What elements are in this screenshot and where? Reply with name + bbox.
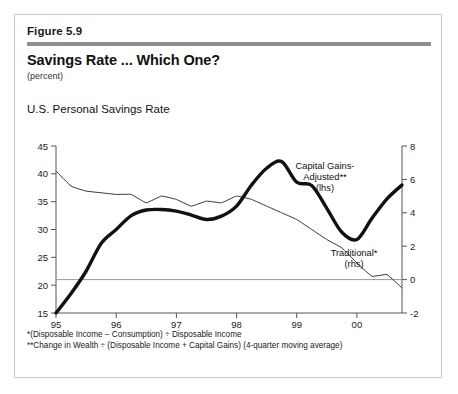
- y-left-tick-label: 30: [37, 224, 48, 235]
- annotation-line: (lhs): [316, 183, 334, 193]
- y-right-tick-label: 2: [410, 241, 415, 252]
- x-tick-label: 96: [111, 319, 122, 330]
- footnote-traditional-definition: *(Disposable Income − Consumption) ÷ Dis…: [27, 330, 242, 339]
- y-right-tick-label: 8: [410, 141, 415, 152]
- y-left-tick-label: 45: [37, 141, 48, 152]
- x-tick-label: 99: [291, 319, 302, 330]
- annotation-line: (rhs): [344, 259, 363, 269]
- x-tick-label: 97: [171, 319, 182, 330]
- annotation-line: Adjusted**: [303, 172, 347, 182]
- plot-frame: [56, 146, 402, 313]
- annotation-line: Capital Gains-: [296, 161, 355, 171]
- y-left-tick-label: 40: [37, 168, 48, 179]
- annotation-capital-gains-adjusted: Capital Gains- Adjusted** (lhs): [296, 161, 355, 193]
- y-right-tick-label: 4: [410, 207, 415, 218]
- y-left-tick-label: 15: [37, 308, 48, 319]
- y-right-tick-label: 6: [410, 174, 415, 185]
- annotation-line: Traditional*: [331, 248, 378, 258]
- y-left-tick-label: 25: [37, 252, 48, 263]
- y-left-tick-label: 20: [37, 280, 48, 291]
- x-axis-ticks: 95 96 97 98 99 00: [51, 313, 362, 330]
- series-line-capital-gains-adjusted: [56, 161, 402, 313]
- chart-plot-area: 45 40 35 30 25 20 15 8 6 4 2 0 -2: [15, 15, 442, 378]
- y-axis-right-ticks: 8 6 4 2 0 -2: [402, 141, 418, 319]
- x-tick-label: 98: [231, 319, 242, 330]
- x-tick-label: 00: [352, 319, 363, 330]
- chart-svg: 45 40 35 30 25 20 15 8 6 4 2 0 -2: [15, 15, 442, 378]
- y-right-tick-label: 0: [410, 274, 415, 285]
- y-left-tick-label: 35: [37, 196, 48, 207]
- y-axis-left-ticks: 45 40 35 30 25 20 15: [37, 141, 56, 319]
- annotation-traditional: Traditional* (rhs): [331, 248, 378, 269]
- y-right-tick-label: -2: [410, 308, 418, 319]
- figure-card: Figure 5.9 Savings Rate ... Which One? (…: [14, 14, 442, 378]
- series-line-traditional: [56, 171, 402, 288]
- x-tick-label: 95: [51, 319, 62, 330]
- footnote-capital-gains-definition: **Change in Wealth ÷ (Disposable Income …: [27, 341, 342, 350]
